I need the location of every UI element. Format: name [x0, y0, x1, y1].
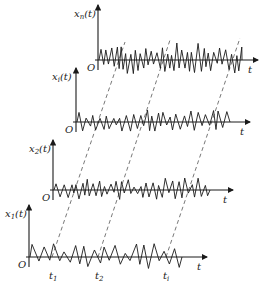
sample-function-xn: [99, 43, 242, 74]
y-axis-label: x1(t): [5, 208, 27, 221]
time-slice-dashed-lines: [52, 38, 240, 257]
origin-label: O: [18, 259, 26, 270]
time-axis-label: t: [248, 64, 253, 75]
y-axis-label: xn(t): [74, 8, 96, 21]
panel-xn: xn(t)Ot: [74, 5, 258, 75]
origin-label: O: [65, 124, 73, 135]
time-mark-t1: t1: [49, 270, 58, 283]
origin-label: O: [87, 62, 95, 73]
time-mark-t2: t2: [95, 270, 104, 283]
sample-function-xi: [77, 110, 230, 131]
random-process-ensemble-diagram: xn(t)Otxi(t)Otx2(t)Otx1(t)Ot t1t2ti: [0, 0, 269, 291]
origin-label: O: [42, 192, 50, 203]
sample-function-x1: [30, 244, 182, 269]
time-axis-label: t: [240, 126, 245, 137]
y-axis-label: xi(t): [52, 71, 72, 84]
dashed-line-2: [98, 40, 170, 257]
time-marks: t1t2ti: [49, 270, 169, 283]
time-mark-ti: ti: [163, 270, 169, 283]
y-axis-label: x2(t): [29, 143, 51, 156]
panel-xi: xi(t)Ot: [52, 68, 250, 137]
panel-x1: x1(t)Ot: [5, 205, 207, 272]
time-axis-label: t: [197, 261, 202, 272]
time-axis-label: t: [223, 194, 228, 205]
dashed-line-3: [166, 38, 240, 257]
